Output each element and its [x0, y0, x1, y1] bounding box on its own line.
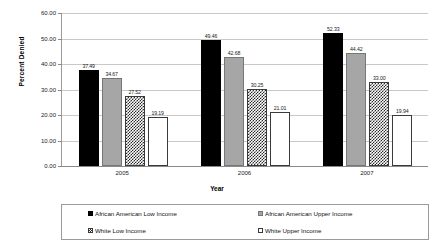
y-axis-tick-label: 0.00 — [44, 163, 56, 169]
bar-value-label: 52.33 — [327, 26, 339, 32]
bar — [148, 117, 168, 166]
bar-wrapper: 19.94 — [392, 13, 412, 166]
bar — [201, 40, 221, 166]
bar-value-label: 34.67 — [105, 71, 117, 77]
bar-value-label: 33.00 — [373, 75, 385, 81]
bar-value-label: 19.19 — [151, 110, 163, 116]
y-axis-title: Percent Denied — [18, 17, 25, 107]
bar-group: 52.3344.4233.0019.94 — [307, 13, 429, 166]
bar-value-label: 27.52 — [128, 89, 140, 95]
legend-item: White Upper Income — [258, 227, 428, 234]
bar-wrapper: 49.46 — [201, 13, 221, 166]
bar-wrapper: 19.19 — [148, 13, 168, 166]
bar-wrapper: 21.01 — [270, 13, 290, 166]
bar-wrapper: 27.52 — [125, 13, 145, 166]
legend-label: African American Low Income — [95, 210, 177, 217]
legend-item: African American Low Income — [88, 210, 258, 217]
legend-label: White Low Income — [95, 227, 146, 234]
legend-swatch-icon — [258, 228, 263, 233]
bar — [369, 82, 389, 166]
legend-swatch-icon — [258, 211, 263, 216]
bar-wrapper: 52.33 — [323, 13, 343, 166]
bar — [125, 96, 145, 166]
y-axis-tick-label: 20.00 — [41, 112, 56, 118]
bar — [270, 112, 290, 166]
legend-swatch-icon — [88, 228, 93, 233]
bar-value-label: 42.68 — [228, 50, 240, 56]
bar — [323, 33, 343, 166]
legend-item: White Low Income — [88, 227, 258, 234]
bar-wrapper: 37.49 — [79, 13, 99, 166]
bar — [346, 53, 366, 166]
bar-chart: Percent Denied 60.0050.0040.0030.0020.00… — [0, 0, 434, 247]
bar — [392, 115, 412, 166]
bar-value-label: 49.46 — [205, 33, 217, 39]
y-axis-tick-label: 50.00 — [41, 36, 56, 42]
bar-value-label: 44.42 — [350, 46, 362, 52]
y-axis-tick-mark — [58, 166, 62, 167]
bar-value-label: 21.01 — [274, 105, 286, 111]
legend-item: African American Upper Income — [258, 210, 428, 217]
bar-group: 37.4934.6727.5219.19 — [62, 13, 184, 166]
y-axis-tick-label: 40.00 — [41, 61, 56, 67]
bar — [102, 78, 122, 166]
bar-value-label: 37.49 — [82, 63, 94, 69]
x-axis-tick-label: 2005 — [61, 170, 183, 176]
bar-wrapper: 33.00 — [369, 13, 389, 166]
legend-label: White Upper Income — [265, 227, 321, 234]
gridline — [62, 166, 428, 167]
chart-legend: African American Low IncomeAfrican Ameri… — [61, 204, 429, 240]
legend-swatch-icon — [88, 211, 93, 216]
x-axis-tick-label: 2007 — [306, 170, 428, 176]
legend-label: African American Upper Income — [265, 210, 352, 217]
bar — [247, 89, 267, 166]
x-axis-title: Year — [0, 185, 434, 192]
plot-area: 60.0050.0040.0030.0020.0010.000.0037.493… — [61, 13, 428, 166]
bar-wrapper: 30.25 — [247, 13, 267, 166]
bar — [224, 57, 244, 166]
bar-wrapper: 42.68 — [224, 13, 244, 166]
y-axis-tick-label: 10.00 — [41, 138, 56, 144]
y-axis-tick-label: 30.00 — [41, 87, 56, 93]
bar — [79, 70, 99, 166]
bar-value-label: 30.25 — [251, 82, 263, 88]
bar-wrapper: 44.42 — [346, 13, 366, 166]
bar-value-label: 19.94 — [396, 108, 408, 114]
y-axis-tick-label: 60.00 — [41, 10, 56, 16]
bar-group: 49.4642.6830.2521.01 — [184, 13, 306, 166]
bar-wrapper: 34.67 — [102, 13, 122, 166]
x-axis-tick-label: 2006 — [183, 170, 305, 176]
